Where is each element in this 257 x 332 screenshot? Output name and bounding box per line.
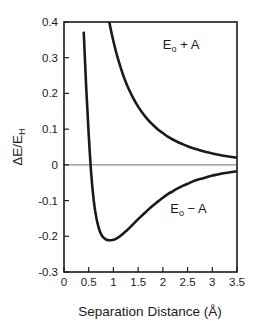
y-tick-label: 0.4: [42, 16, 59, 28]
y-tick-label: -0.2: [38, 230, 58, 242]
x-tick-label: 2.5: [180, 276, 196, 288]
x-tick-label: 0.5: [81, 276, 97, 288]
x-tick-label: 3.5: [229, 276, 245, 288]
y-tick-label: 0.2: [42, 87, 58, 99]
annotation-antibonding: Eo + A: [163, 37, 200, 54]
chart-figure: 00.511.522.533.5 0.40.30.20.10-0.1-0.2-0…: [0, 0, 257, 332]
y-tick-label: 0.1: [42, 123, 58, 135]
y-tick-label: -0.3: [38, 266, 58, 278]
annotation-bonding: Eo − A: [170, 201, 207, 218]
y-tick-label: 0.3: [42, 52, 58, 64]
y-tick-label: -0.1: [38, 195, 58, 207]
x-tick-label: 3: [209, 276, 215, 288]
x-tick-label: 1.5: [130, 276, 146, 288]
y-tick-label: 0: [52, 159, 58, 171]
x-tick-label: 0: [61, 276, 67, 288]
x-tick-label: 2: [160, 276, 166, 288]
x-axis-title: Separation Distance (Å): [78, 304, 221, 319]
figure-background: [0, 0, 257, 332]
plot-svg: 00.511.522.533.5 0.40.30.20.10-0.1-0.2-0…: [0, 0, 257, 332]
x-tick-label: 1: [110, 276, 116, 288]
